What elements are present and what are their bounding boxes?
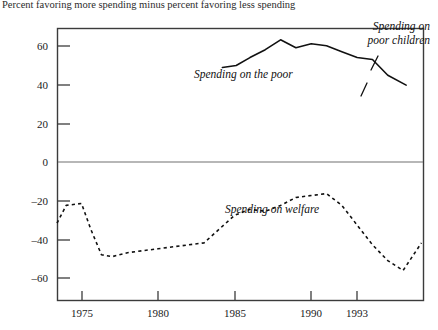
- y-tick-label-0: 0: [43, 156, 49, 168]
- x-axis-labels: 1975 1980 1985 1990 1993: [71, 307, 369, 319]
- y-tick-label-neg40: –40: [31, 234, 49, 246]
- poor-children-leader-icon: [361, 56, 378, 96]
- y-tick-label-60: 60: [37, 40, 49, 52]
- x-tick-label-1993: 1993: [346, 307, 369, 319]
- x-axis-ticks: [82, 291, 357, 300]
- y-tick-label-40: 40: [37, 79, 49, 91]
- annotation-spending-on-poor-children-line1: Spending on: [373, 20, 430, 33]
- y-axis-labels: 60 40 20 0 –20 –40 –60: [31, 40, 49, 284]
- chart-svg: 60 40 20 0 –20 –40 –60 1975 1980 1985 19…: [0, 0, 438, 330]
- y-tick-label-20: 20: [37, 118, 49, 130]
- x-tick-label-1980: 1980: [147, 307, 170, 319]
- y-tick-label-neg60: –60: [31, 272, 49, 284]
- x-tick-label-1990: 1990: [300, 307, 323, 319]
- y-tick-label-neg20: –20: [31, 195, 49, 207]
- annotation-spending-on-poor-children-line2: poor children: [367, 34, 431, 47]
- annotation-spending-on-the-poor: Spending on the poor: [194, 68, 293, 81]
- x-tick-label-1985: 1985: [224, 307, 247, 319]
- annotation-spending-on-welfare: Spending on welfare: [225, 203, 319, 216]
- chart-figure: 60 40 20 0 –20 –40 –60 1975 1980 1985 19…: [0, 0, 438, 330]
- x-tick-label-1975: 1975: [71, 307, 94, 319]
